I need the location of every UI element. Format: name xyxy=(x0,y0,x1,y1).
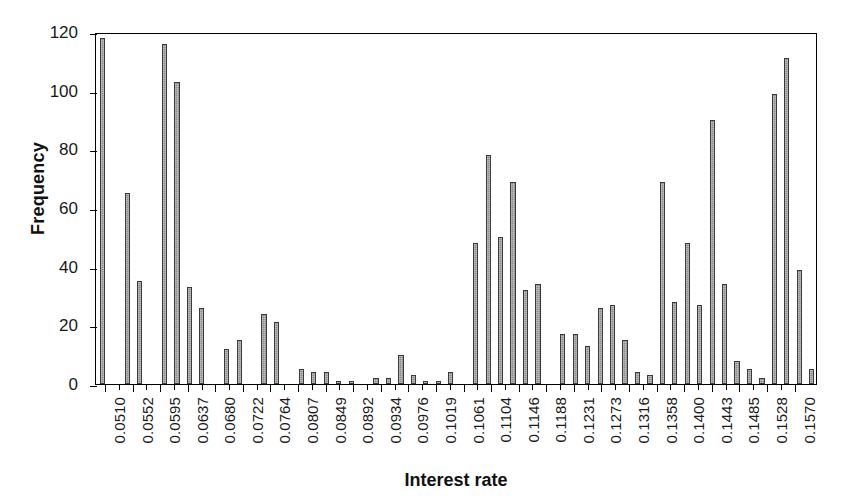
histogram-bar xyxy=(486,155,491,384)
histogram-bar xyxy=(784,58,789,384)
x-axis-tick-label: 0.0680 xyxy=(221,397,238,443)
histogram-bar xyxy=(473,243,478,384)
histogram-bar xyxy=(523,290,528,384)
histogram-bar xyxy=(386,378,391,384)
x-axis-tick-mark xyxy=(270,385,271,392)
histogram-bar xyxy=(224,349,229,384)
x-axis-minor-tick-mark xyxy=(532,385,533,390)
histogram-figure: Frequency 020406080100120 0.05100.05520.… xyxy=(0,0,860,503)
x-axis-minor-tick-mark xyxy=(753,385,754,390)
x-axis-tick-label: 0.1019 xyxy=(442,397,459,443)
x-axis-tick-mark xyxy=(739,385,740,392)
x-axis-tick-mark xyxy=(160,385,161,392)
x-axis-minor-tick-mark xyxy=(202,385,203,390)
x-axis-tick-mark xyxy=(519,385,520,392)
x-axis-tick-mark xyxy=(408,385,409,392)
histogram-bar xyxy=(734,361,739,384)
x-axis-tick-label: 0.0595 xyxy=(166,397,183,443)
x-axis-minor-tick-mark xyxy=(560,385,561,390)
histogram-bar xyxy=(635,372,640,384)
x-axis-tick-label: 0.0849 xyxy=(332,397,349,443)
histogram-bar xyxy=(585,346,590,384)
x-axis-tick-mark xyxy=(712,385,713,392)
x-axis-minor-tick-mark xyxy=(670,385,671,390)
histogram-bar xyxy=(237,340,242,384)
x-axis-tick-mark xyxy=(657,385,658,392)
histogram-bar xyxy=(448,372,453,384)
histogram-bar xyxy=(672,302,677,384)
x-axis-tick-label: 0.1443 xyxy=(718,397,735,443)
histogram-bar xyxy=(324,372,329,384)
x-axis-minor-tick-mark xyxy=(781,385,782,390)
x-axis-tick-mark xyxy=(436,385,437,392)
x-axis-minor-tick-mark xyxy=(643,385,644,390)
histogram-bar xyxy=(510,182,515,384)
y-axis-tick-label: 120 xyxy=(50,23,78,43)
x-axis-tick-mark xyxy=(215,385,216,392)
histogram-bar xyxy=(174,82,179,384)
y-axis-tick-mark xyxy=(90,210,97,211)
x-axis-minor-tick-mark xyxy=(367,385,368,390)
y-axis-tick-mark xyxy=(90,269,97,270)
x-axis-tick-mark xyxy=(243,385,244,392)
y-axis-tick-mark xyxy=(90,327,97,328)
histogram-bar xyxy=(560,334,565,384)
x-axis-minor-tick-mark xyxy=(726,385,727,390)
x-axis-tick-mark xyxy=(491,385,492,392)
x-axis-minor-tick-mark xyxy=(588,385,589,390)
x-axis-minor-tick-mark xyxy=(450,385,451,390)
y-axis-tick-label: 0 xyxy=(69,375,78,395)
histogram-bar xyxy=(349,381,354,384)
histogram-bar xyxy=(797,270,802,384)
x-axis-tick-mark xyxy=(464,385,465,392)
x-axis-minor-tick-mark xyxy=(257,385,258,390)
x-axis-tick-label: 0.1485 xyxy=(745,397,762,443)
x-axis-tick-label: 0.0807 xyxy=(304,397,321,443)
x-axis-minor-tick-mark xyxy=(312,385,313,390)
x-axis-tick-mark xyxy=(298,385,299,392)
histogram-bar xyxy=(598,308,603,384)
histogram-bar xyxy=(759,378,764,384)
x-axis-tick-mark xyxy=(546,385,547,392)
histogram-bar xyxy=(162,44,167,384)
histogram-bar xyxy=(100,38,105,384)
histogram-bar xyxy=(622,340,627,384)
x-axis-tick-label: 0.0976 xyxy=(414,397,431,443)
histogram-bar xyxy=(373,378,378,384)
plot-area xyxy=(95,33,817,385)
x-axis-tick-label: 0.1273 xyxy=(607,397,624,443)
histogram-bar xyxy=(137,281,142,384)
histogram-bar xyxy=(299,369,304,384)
x-axis-tick-label: 0.1188 xyxy=(552,397,569,442)
x-axis-tick-mark xyxy=(188,385,189,392)
histogram-bar xyxy=(722,284,727,384)
x-axis-minor-tick-mark xyxy=(229,385,230,390)
histogram-bar xyxy=(647,375,652,384)
histogram-bar xyxy=(710,120,715,384)
x-axis-minor-tick-mark xyxy=(505,385,506,390)
x-axis-tick-label: 0.1316 xyxy=(635,397,652,443)
histogram-bar xyxy=(398,355,403,384)
histogram-bar xyxy=(498,237,503,384)
x-axis-tick-mark xyxy=(133,385,134,392)
histogram-bar xyxy=(573,334,578,384)
y-axis-tick-label: 40 xyxy=(59,258,78,278)
histogram-bar xyxy=(125,193,130,384)
y-axis-tick-label: 20 xyxy=(59,316,78,336)
x-axis-tick-label: 0.0552 xyxy=(139,397,156,443)
x-axis-tick-mark xyxy=(353,385,354,392)
x-axis-tick-label: 0.0637 xyxy=(194,397,211,443)
x-axis-tick-label: 0.1104 xyxy=(497,397,514,442)
x-axis-minor-tick-mark xyxy=(284,385,285,390)
x-axis-minor-tick-mark xyxy=(119,385,120,390)
x-axis-tick-label: 0.0510 xyxy=(111,397,128,443)
x-axis-minor-tick-mark xyxy=(174,385,175,390)
x-axis-tick-label: 0.1528 xyxy=(773,397,790,443)
x-axis-tick-mark xyxy=(601,385,602,392)
histogram-bar xyxy=(311,372,316,384)
x-axis-tick-label: 0.1400 xyxy=(690,397,707,443)
x-axis-minor-tick-mark xyxy=(422,385,423,390)
histogram-bar xyxy=(436,381,441,384)
histogram-bar xyxy=(423,381,428,384)
x-axis-tick-mark xyxy=(105,385,106,392)
